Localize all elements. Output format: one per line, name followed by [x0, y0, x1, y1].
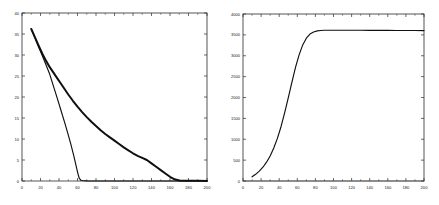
y-tick-label: 3500: [231, 32, 241, 37]
y-tick-label: 20: [14, 95, 19, 100]
y-tick-label: 1000: [231, 137, 241, 142]
x-tick-label: 160: [167, 185, 175, 190]
x-tick-label: 60: [295, 185, 300, 190]
y-tick-label: 1500: [231, 116, 241, 121]
y-tick-label: 25: [14, 74, 19, 79]
sigmoid-plot-svg: 0204060801001201401601802000500100015002…: [219, 0, 439, 205]
figure-container: 0204060801001201401601802000510152025303…: [0, 0, 439, 205]
chart-panel-right: 0204060801001201401601802000500100015002…: [219, 0, 439, 205]
y-tick-label: 10: [14, 137, 19, 142]
chart-panel-left: 0204060801001201401601802000510152025303…: [0, 0, 219, 205]
x-tick-label: 180: [185, 185, 193, 190]
y-tick-label: 500: [233, 158, 241, 163]
x-tick-label: 160: [384, 185, 392, 190]
series-cumulative-sigmoid: [252, 30, 424, 177]
y-tick-label: 2500: [231, 74, 241, 79]
y-tick-label: 0: [238, 179, 241, 184]
y-tick-label: 3000: [231, 53, 241, 58]
x-tick-label: 120: [130, 185, 138, 190]
x-tick-label: 200: [204, 185, 212, 190]
x-tick-label: 80: [313, 185, 318, 190]
x-tick-label: 200: [421, 185, 429, 190]
decay-plot-svg: 0204060801001201401601802000510152025303…: [0, 0, 219, 205]
y-tick-label: 30: [14, 53, 19, 58]
y-tick-label: 4000: [231, 12, 241, 17]
x-tick-label: 140: [148, 185, 156, 190]
x-tick-label: 20: [38, 185, 43, 190]
x-tick-label: 80: [94, 185, 99, 190]
x-tick-label: 40: [57, 185, 62, 190]
x-tick-label: 0: [242, 185, 245, 190]
x-tick-label: 180: [402, 185, 410, 190]
y-tick-label: 40: [14, 11, 19, 16]
series-slow-decay: [31, 29, 207, 181]
y-tick-label: 5: [17, 158, 20, 163]
x-tick-label: 100: [111, 185, 119, 190]
y-tick-label: 2000: [231, 95, 241, 100]
x-tick-label: 100: [330, 185, 338, 190]
x-tick-label: 60: [75, 185, 80, 190]
series-fast-decay: [31, 29, 207, 181]
y-tick-label: 35: [14, 32, 19, 37]
y-tick-label: 15: [14, 116, 19, 121]
x-tick-label: 40: [277, 185, 282, 190]
x-tick-label: 120: [348, 185, 356, 190]
y-tick-label: 0: [17, 179, 20, 184]
x-tick-label: 140: [366, 185, 374, 190]
plot-frame: [22, 13, 207, 181]
x-tick-label: 20: [259, 185, 264, 190]
x-tick-label: 0: [21, 185, 24, 190]
